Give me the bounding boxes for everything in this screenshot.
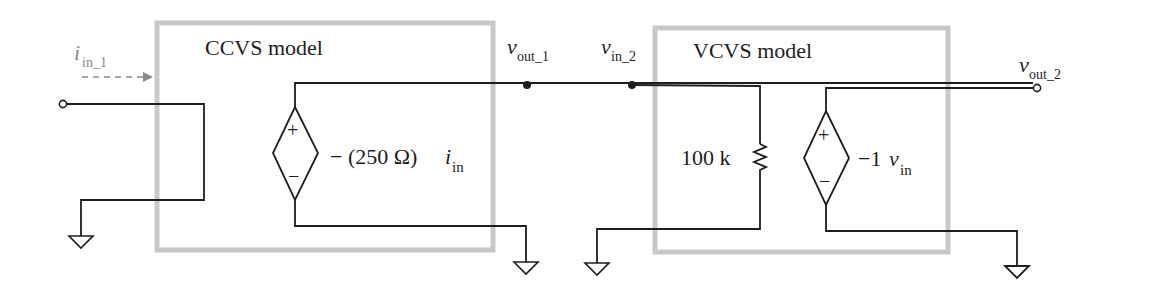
resistor-label: 100 k [681, 145, 731, 170]
vcvs-top-wire [826, 88, 1033, 111]
ccvs-model-title: CCVS model [205, 35, 323, 60]
output-terminal [1033, 84, 1040, 91]
node-vout1-dot [523, 81, 531, 89]
vin2-subscript: in_2 [611, 49, 636, 64]
vin2-symbol: v [601, 34, 611, 59]
vcvs-plus: + [818, 124, 829, 146]
ground-icon [514, 262, 538, 274]
vout2-subscript: out_2 [1029, 67, 1061, 82]
current-arrow-icon [82, 72, 153, 82]
vcvs-control-symbol: v [889, 146, 899, 171]
circuit-diagram: CCVS model VCVS model i in_1 + − − (250 … [0, 0, 1153, 298]
ground-icon [1005, 266, 1029, 278]
input-wire [67, 104, 204, 236]
ccvs-gain-label: − (250 Ω) [330, 144, 417, 169]
vcvs-control-subscript: in [900, 162, 912, 178]
ccvs-plus: + [287, 119, 298, 141]
ground-icon [585, 263, 609, 275]
ground-icon [69, 236, 93, 248]
ccvs-control-symbol: i [445, 144, 451, 169]
ccvs-minus: − [288, 165, 299, 187]
vout1-symbol: v [507, 34, 517, 59]
input-terminal [59, 100, 66, 107]
vcvs-minus: − [819, 170, 830, 192]
input-current-symbol: i [74, 40, 80, 65]
vout2-symbol: v [1019, 52, 1029, 77]
vcvs-bottom-wire [826, 205, 1017, 266]
vcvs-gain-label: −1 [858, 146, 881, 171]
input-current-subscript: in_1 [82, 55, 107, 70]
ccvs-control-subscript: in [452, 159, 464, 175]
vout1-subscript: out_1 [517, 49, 549, 64]
resistor-top-wire [632, 85, 760, 144]
top-wire-ccvs [295, 83, 1033, 107]
input-current-label: i in_1 [74, 40, 107, 70]
vcvs-model-title: VCVS model [693, 38, 812, 63]
